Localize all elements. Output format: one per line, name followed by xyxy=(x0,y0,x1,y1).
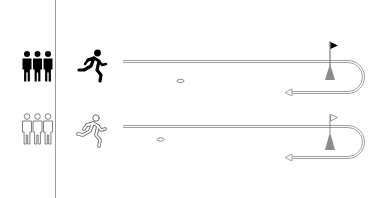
cone-icon xyxy=(325,132,335,150)
running-person-icon xyxy=(79,50,106,81)
flag-icon xyxy=(331,42,339,49)
row-team-filled: Filled team xyxy=(0,0,365,96)
drill-diagram: Filled team xyxy=(0,0,380,198)
arrow-left-icon xyxy=(285,89,292,96)
three-people-icon xyxy=(22,51,52,82)
three-people-icon xyxy=(22,114,52,144)
cone-icon xyxy=(325,64,335,80)
running-person-icon xyxy=(78,115,105,146)
arrow-left-icon xyxy=(285,154,292,161)
flag-icon xyxy=(331,115,338,122)
ball-icon xyxy=(157,138,164,141)
ball-icon xyxy=(177,79,184,82)
